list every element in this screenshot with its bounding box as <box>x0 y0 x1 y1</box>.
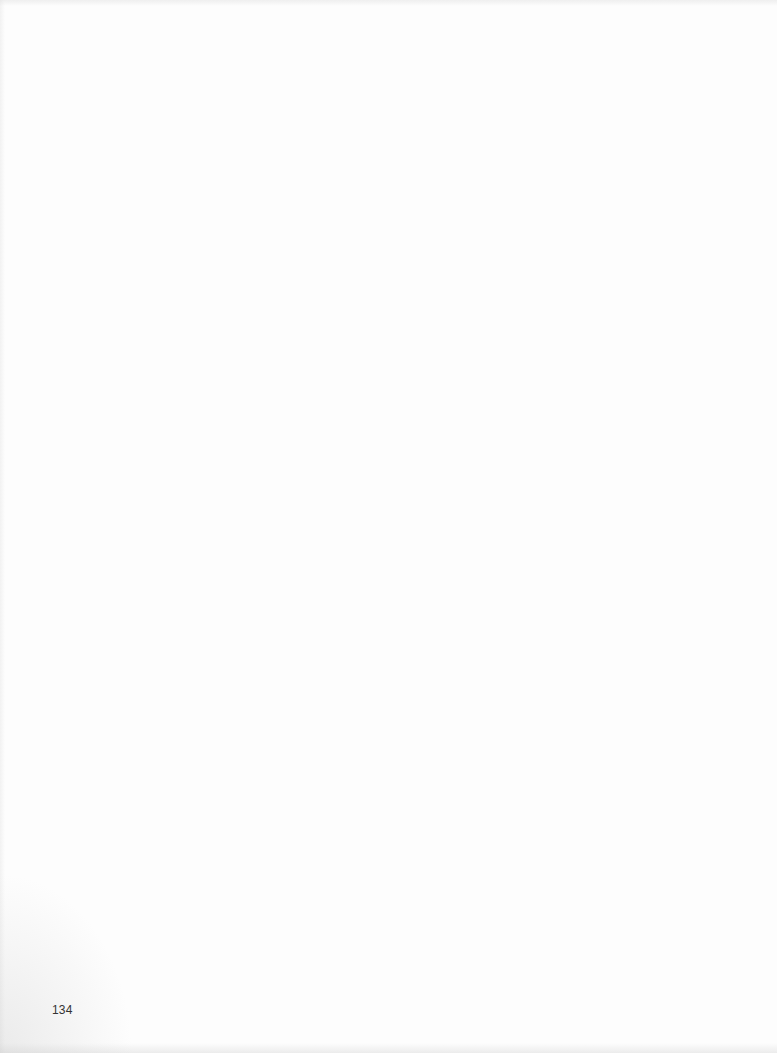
page-number: 134 <box>52 1003 73 1017</box>
scanned-page: 134 <box>0 0 777 1053</box>
